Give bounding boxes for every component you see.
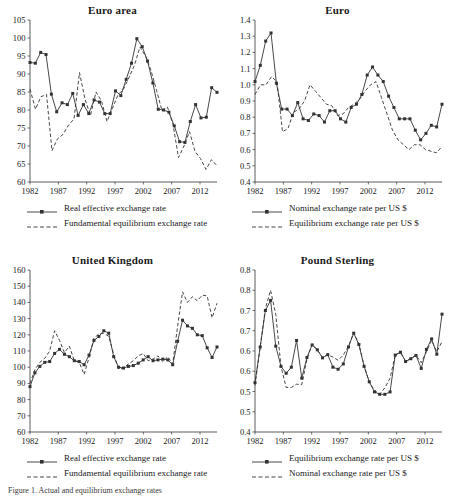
data-point-marker bbox=[295, 339, 298, 342]
solid-line-marker-icon bbox=[251, 453, 283, 463]
y-tick-label-pound-sterling: 0.6 bbox=[240, 366, 251, 376]
data-point-marker bbox=[151, 82, 154, 85]
legend-item[interactable]: Real effective exchange rate bbox=[0, 450, 225, 465]
data-point-marker bbox=[142, 358, 145, 361]
data-point-marker bbox=[130, 62, 133, 65]
y-tick-label-euro-area: 90 bbox=[17, 69, 26, 79]
x-tick-label-euro: 2012 bbox=[417, 186, 434, 196]
series-line-pound-sterling-1 bbox=[255, 290, 442, 394]
data-point-marker bbox=[39, 51, 42, 54]
data-point-marker bbox=[435, 125, 438, 128]
y-tick-label-euro: 0.8 bbox=[240, 112, 251, 122]
y-tick-label-euro: 0.5 bbox=[240, 161, 251, 171]
legend-label: Real effective exchange rate bbox=[64, 203, 166, 213]
solid-line-marker-icon bbox=[26, 203, 58, 213]
legend-item[interactable]: Real effective exchange rate bbox=[0, 200, 225, 215]
data-point-marker bbox=[344, 121, 347, 124]
y-tick-label-united-kingdom: 150 bbox=[13, 281, 26, 291]
y-tick-label-pound-sterling: 0.7 bbox=[240, 326, 251, 336]
legend-item[interactable]: Fundamental equilibrium exchange rate bbox=[0, 215, 225, 230]
x-tick-label-pound-sterling: 2007 bbox=[388, 436, 405, 446]
data-point-marker bbox=[425, 348, 428, 351]
data-point-marker bbox=[157, 108, 160, 111]
data-point-marker bbox=[389, 390, 392, 393]
axis-lines-euro-area bbox=[30, 20, 217, 182]
x-tick-label-euro: 2007 bbox=[388, 186, 405, 196]
data-point-marker bbox=[290, 366, 293, 369]
y-tick-label-euro: 0.6 bbox=[240, 145, 251, 155]
legend-item[interactable]: Fundamental equilibrium exchange rate bbox=[0, 465, 225, 480]
chart-panel-euro-area: Euro area 105100959085807570656019821987… bbox=[0, 2, 225, 243]
data-point-marker bbox=[254, 80, 257, 83]
data-point-marker bbox=[38, 365, 41, 368]
data-point-marker bbox=[63, 353, 66, 356]
data-point-marker bbox=[29, 61, 32, 64]
y-tick-label-pound-sterling: 0.5 bbox=[240, 387, 251, 397]
data-point-marker bbox=[132, 364, 135, 367]
data-point-marker bbox=[403, 117, 406, 120]
data-point-marker bbox=[441, 103, 444, 106]
data-point-marker bbox=[323, 121, 326, 124]
legend-item[interactable]: Equilibrium exchange rate per US $ bbox=[225, 215, 450, 230]
legend-label: Real effective exchange rate bbox=[64, 453, 166, 463]
data-point-marker bbox=[83, 363, 86, 366]
data-point-marker bbox=[259, 345, 262, 348]
data-point-marker bbox=[77, 114, 80, 117]
dashed-line-icon bbox=[26, 218, 58, 228]
y-tick-label-euro-area: 100 bbox=[13, 33, 26, 43]
legend-item[interactable]: Equilibrium exchange rate per US $ bbox=[225, 450, 450, 465]
data-point-marker bbox=[43, 361, 46, 364]
y-tick-label-pound-sterling: 0.8 bbox=[240, 265, 251, 275]
legend-euro: Nominal exchange rate per US $Equilibriu… bbox=[225, 200, 450, 230]
figure-exchange-rates: Euro area 105100959085807570656019821987… bbox=[0, 0, 450, 496]
x-tick-label-united-kingdom: 1987 bbox=[50, 436, 67, 446]
y-tick-label-euro: 1.0 bbox=[240, 80, 251, 90]
y-tick-label-euro-area: 85 bbox=[17, 87, 26, 97]
legend-label: Equilibrium exchange rate per US $ bbox=[289, 218, 419, 228]
data-point-marker bbox=[53, 352, 56, 355]
chart-panel-pound-sterling: Pound Sterling 0.80.80.70.70.60.60.50.50… bbox=[225, 252, 450, 493]
data-point-marker bbox=[61, 101, 64, 104]
data-point-marker bbox=[392, 106, 395, 109]
data-point-marker bbox=[371, 65, 374, 68]
data-point-marker bbox=[382, 80, 385, 83]
data-point-marker bbox=[34, 62, 37, 65]
y-tick-label-euro-area: 70 bbox=[17, 141, 26, 151]
data-point-marker bbox=[186, 324, 189, 327]
data-point-marker bbox=[318, 114, 321, 117]
data-point-marker bbox=[302, 117, 305, 120]
y-tick-label-united-kingdom: 130 bbox=[13, 314, 26, 324]
x-tick-label-united-kingdom: 1992 bbox=[78, 436, 95, 446]
x-tick-label-united-kingdom: 2002 bbox=[135, 436, 152, 446]
data-point-marker bbox=[66, 103, 69, 106]
data-point-marker bbox=[58, 348, 61, 351]
data-point-marker bbox=[194, 103, 197, 106]
data-point-marker bbox=[269, 299, 272, 302]
data-point-marker bbox=[419, 138, 422, 141]
dashed-line-icon bbox=[251, 468, 283, 478]
data-point-marker bbox=[387, 95, 390, 98]
legend-item[interactable]: Nominal exchange rate per US $ bbox=[225, 465, 450, 480]
dashed-line-icon bbox=[251, 218, 283, 228]
data-point-marker bbox=[408, 117, 411, 120]
data-point-marker bbox=[376, 74, 379, 77]
y-tick-label-euro-area: 75 bbox=[17, 123, 26, 133]
data-point-marker bbox=[366, 74, 369, 77]
legend-item[interactable]: Nominal exchange rate per US $ bbox=[225, 200, 450, 215]
y-tick-label-united-kingdom: 140 bbox=[13, 297, 26, 307]
x-tick-label-euro-area: 1997 bbox=[107, 186, 124, 196]
y-tick-label-pound-sterling: 0.7 bbox=[240, 306, 251, 316]
data-point-marker bbox=[71, 92, 74, 95]
data-point-marker bbox=[45, 53, 48, 56]
x-tick-label-euro-area: 2012 bbox=[192, 186, 209, 196]
data-point-marker bbox=[98, 101, 101, 104]
data-point-marker bbox=[280, 108, 283, 111]
series-line-euro-0 bbox=[255, 33, 442, 140]
y-tick-label-euro-area: 105 bbox=[13, 15, 26, 25]
y-tick-label-euro-area: 65 bbox=[17, 159, 26, 169]
data-point-marker bbox=[435, 353, 438, 356]
data-point-marker bbox=[29, 385, 32, 388]
x-tick-label-euro-area: 2007 bbox=[163, 186, 180, 196]
data-point-marker bbox=[383, 393, 386, 396]
y-tick-label-united-kingdom: 80 bbox=[17, 395, 26, 405]
